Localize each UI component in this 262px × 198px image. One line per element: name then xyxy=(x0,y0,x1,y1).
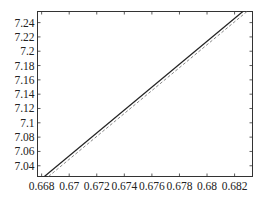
plot-frame xyxy=(38,12,253,177)
y-tick-label: 7.14 xyxy=(14,88,34,100)
y-tick-label: 7.1 xyxy=(20,117,35,129)
x-tick-label: 0.682 xyxy=(222,180,248,192)
y-axis: 7.047.067.087.17.127.147.167.187.27.227.… xyxy=(14,17,252,172)
x-tick-label: 0.678 xyxy=(167,180,193,192)
series-layer xyxy=(44,12,247,177)
series-line-solid xyxy=(44,12,242,177)
x-tick-label: 0.67 xyxy=(59,180,79,192)
y-tick-label: 7.22 xyxy=(14,31,34,43)
y-tick-label: 7.2 xyxy=(20,45,35,57)
x-tick-label: 0.668 xyxy=(29,180,55,192)
x-tick-label: 0.676 xyxy=(139,180,165,192)
series-line-dashed xyxy=(49,12,247,177)
line-chart: 0.6680.670.6720.6740.6760.6780.680.682 7… xyxy=(0,0,262,198)
y-tick-label: 7.06 xyxy=(14,145,34,157)
x-tick-label: 0.674 xyxy=(111,180,137,192)
y-tick-label: 7.12 xyxy=(14,102,34,114)
x-tick-label: 0.68 xyxy=(197,180,217,192)
y-tick-label: 7.18 xyxy=(14,60,34,72)
y-tick-label: 7.24 xyxy=(14,17,34,29)
y-tick-label: 7.08 xyxy=(14,131,34,143)
x-tick-label: 0.672 xyxy=(84,180,110,192)
y-tick-label: 7.04 xyxy=(14,160,34,172)
y-tick-label: 7.16 xyxy=(14,74,34,86)
